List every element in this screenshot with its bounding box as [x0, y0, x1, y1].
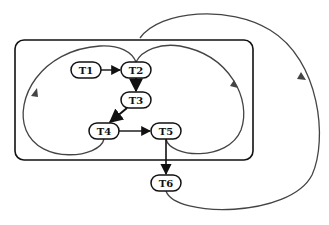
node-t6-label: T6	[159, 178, 173, 189]
edge-t3-t4	[110, 108, 127, 122]
feedback-loop-right-inner	[136, 45, 244, 153]
node-t6: T6	[151, 175, 181, 191]
loop-arrow-left-icon	[31, 88, 38, 97]
node-t1-label: T1	[79, 65, 93, 76]
task-flow-diagram: T1 T2 T3 T4 T5 T6	[0, 0, 329, 225]
node-t4-label: T4	[97, 126, 111, 137]
node-t4: T4	[89, 123, 119, 139]
node-t1: T1	[71, 62, 101, 78]
node-t5-label: T5	[159, 126, 173, 137]
node-t2: T2	[121, 62, 151, 78]
loop-arrow-outer-icon	[297, 72, 306, 80]
node-t3-label: T3	[129, 95, 143, 106]
node-t3: T3	[121, 92, 151, 108]
loop-arrow-right-inner-icon	[230, 80, 238, 88]
node-t2-label: T2	[129, 65, 143, 76]
node-t5: T5	[151, 123, 181, 139]
